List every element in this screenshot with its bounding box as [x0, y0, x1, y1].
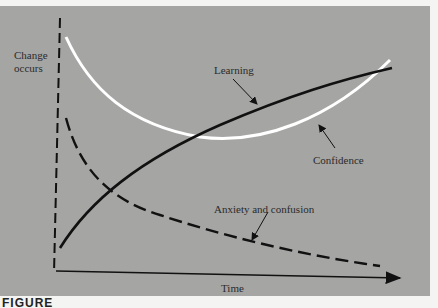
learning-pointer [233, 79, 257, 104]
learning-label: Learning [214, 64, 254, 77]
x-axis-label: Time [221, 282, 244, 295]
change-occurs-label: Change occurs [14, 49, 48, 75]
anxiety-label: Anxiety and confusion [214, 203, 314, 216]
series-confidence [66, 37, 390, 138]
figure-caption: FIGURE [2, 297, 53, 308]
change-occurs-label-line2: occurs [14, 62, 48, 75]
x-axis [56, 271, 400, 278]
confidence-pointer [319, 125, 335, 148]
chart-figure: Change occurs Learning Confidence Anxiet… [0, 6, 430, 296]
change-occurs-line [54, 18, 60, 273]
anxiety-pointer [252, 212, 268, 240]
series-anxiety [66, 118, 380, 266]
confidence-label: Confidence [313, 154, 364, 167]
chart-plot [0, 6, 430, 296]
change-occurs-label-line1: Change [14, 49, 48, 62]
